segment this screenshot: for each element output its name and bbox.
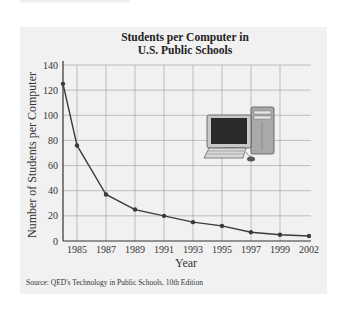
svg-text:1993: 1993 (183, 244, 203, 255)
svg-text:80: 80 (48, 135, 58, 146)
svg-text:1997: 1997 (241, 244, 261, 255)
x-axis-label: Year (175, 256, 197, 271)
y-tick-labels: 020406080100120140 (43, 60, 58, 247)
svg-text:40: 40 (48, 185, 58, 196)
data-markers (61, 82, 311, 239)
svg-text:1989: 1989 (125, 244, 145, 255)
source-note: Source: QED's Technology in Public Schoo… (26, 278, 203, 287)
svg-text:140: 140 (43, 60, 58, 71)
svg-text:60: 60 (48, 160, 58, 171)
svg-text:1985: 1985 (67, 244, 87, 255)
svg-text:2002: 2002 (299, 244, 319, 255)
svg-text:1995: 1995 (212, 244, 232, 255)
computer-illustration (204, 107, 274, 162)
mouse-icon (247, 157, 255, 162)
svg-text:0: 0 (53, 236, 58, 247)
svg-text:20: 20 (48, 210, 58, 221)
svg-text:1987: 1987 (96, 244, 116, 255)
svg-text:1991: 1991 (154, 244, 174, 255)
x-tick-labels: 198519871989199119931995199719992002 (67, 244, 319, 255)
svg-text:1999: 1999 (270, 244, 290, 255)
svg-text:120: 120 (43, 85, 58, 96)
svg-text:100: 100 (43, 110, 58, 121)
y-axis-label: Number of Students per Computer (25, 72, 40, 238)
keyboard-icon (204, 148, 246, 158)
